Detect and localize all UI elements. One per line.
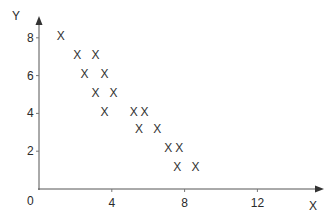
- x-marker-icon: X: [80, 67, 88, 81]
- scatter-chart: 2468 4812 Y X 0 XXXXXXXXXXXXXXXX: [0, 0, 329, 217]
- x-axis-arrow-icon: [315, 186, 324, 193]
- x-marker-icon: X: [57, 29, 65, 43]
- x-marker-icon: X: [192, 160, 200, 174]
- y-tick-label: 6: [27, 69, 34, 83]
- origin-label: 0: [27, 194, 34, 208]
- x-marker-icon: X: [153, 122, 161, 136]
- x-marker-icon: X: [130, 105, 138, 119]
- y-axis-label: Y: [12, 9, 20, 23]
- y-ticks: 2468: [27, 31, 39, 158]
- x-ticks: 4812: [108, 189, 264, 210]
- x-marker-icon: X: [164, 141, 172, 155]
- x-marker-icon: X: [110, 86, 118, 100]
- x-axis-label: X: [309, 199, 317, 213]
- x-marker-icon: X: [91, 86, 99, 100]
- y-tick-label: 2: [27, 144, 34, 158]
- x-axis: [38, 186, 324, 193]
- x-tick-label: 8: [181, 196, 188, 210]
- x-marker-icon: X: [173, 160, 181, 174]
- x-tick-label: 12: [251, 196, 265, 210]
- x-marker-icon: X: [141, 105, 149, 119]
- x-tick-label: 4: [108, 196, 115, 210]
- y-axis-arrow-icon: [36, 16, 43, 25]
- y-tick-label: 4: [27, 106, 34, 120]
- x-marker-icon: X: [101, 67, 109, 81]
- x-marker-icon: X: [175, 141, 183, 155]
- x-marker-icon: X: [91, 48, 99, 62]
- y-axis: [36, 16, 43, 190]
- x-marker-icon: X: [135, 122, 143, 136]
- x-marker-icon: X: [101, 105, 109, 119]
- x-marker-icon: X: [73, 48, 81, 62]
- data-points: XXXXXXXXXXXXXXXX: [57, 29, 200, 173]
- y-tick-label: 8: [27, 31, 34, 45]
